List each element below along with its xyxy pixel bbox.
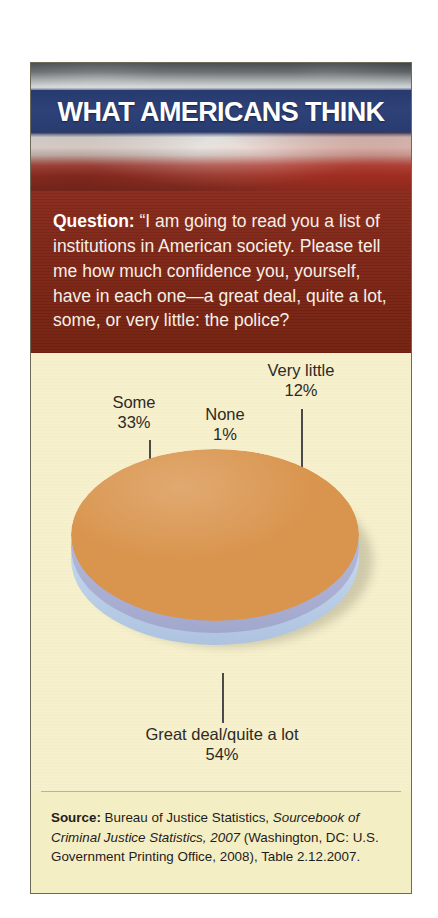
- question-block: Question: “I am going to read you a list…: [31, 191, 411, 353]
- pie-label-great-deal: Great deal/quite a lot 54%: [112, 725, 332, 765]
- source-part1: Bureau of Justice Statistics,: [101, 810, 273, 825]
- leader-line-great-deal: [222, 673, 224, 723]
- pie-label-none-name: None: [205, 405, 244, 423]
- pie-label-some-name: Some: [112, 393, 155, 411]
- source-label: Source:: [51, 810, 101, 825]
- pie-label-very-little: Very little 12%: [246, 361, 356, 401]
- flag-header: WHAT AMERICANS THINK: [31, 63, 411, 191]
- pie-chart: Some 33% None 1% Very little 12%: [31, 353, 411, 791]
- pie-label-very-little-pct: 12%: [246, 381, 356, 401]
- what-americans-think-panel: WHAT AMERICANS THINK Question: “I am goi…: [30, 62, 412, 894]
- pie-label-great-deal-pct: 54%: [112, 745, 332, 765]
- pie-label-some-pct: 33%: [91, 413, 177, 433]
- source-note: Source: Bureau of Justice Statistics, So…: [31, 792, 411, 880]
- question-label: Question:: [53, 211, 135, 231]
- pie-label-none: None 1%: [190, 405, 260, 445]
- pie-label-great-deal-name: Great deal/quite a lot: [145, 725, 298, 743]
- pie-label-some: Some 33%: [91, 393, 177, 433]
- page-root: WHAT AMERICANS THINK Question: “I am goi…: [0, 0, 438, 918]
- pie-top-face: [71, 449, 359, 621]
- page-title: WHAT AMERICANS THINK: [31, 91, 411, 133]
- pie-slices: [71, 449, 359, 621]
- pie-label-none-pct: 1%: [190, 425, 260, 445]
- pie-graphic: [65, 445, 377, 675]
- pie-label-very-little-name: Very little: [268, 361, 335, 379]
